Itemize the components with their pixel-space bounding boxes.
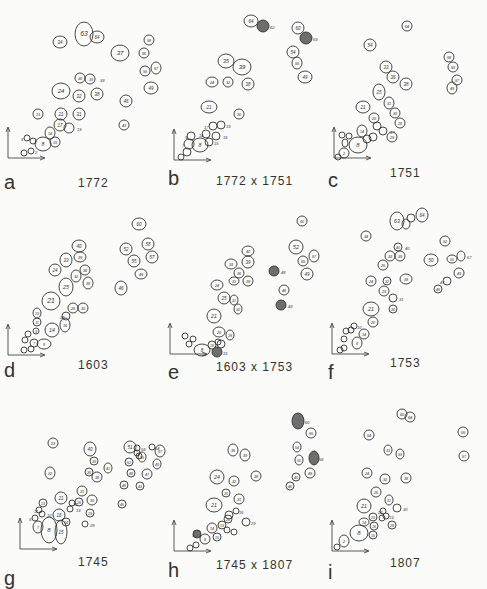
spot-label: 32: [383, 478, 388, 482]
protein-spot: 39: [396, 449, 404, 459]
protein-spot: 32: [380, 474, 390, 484]
axis-arrows-icon: [330, 520, 369, 553]
protein-spot: 8: [350, 525, 368, 541]
protein-spot: 28: [388, 521, 396, 529]
spot-side-label: 26: [377, 510, 383, 515]
protein-spot: 30: [393, 504, 408, 512]
protein-spot: 21: [357, 499, 371, 513]
spot-label: 28: [389, 524, 394, 528]
spot-label: 24: [364, 472, 369, 476]
protein-spot: [334, 544, 340, 550]
panel-caption: 1807: [390, 556, 421, 570]
protein-spot: 20: [369, 513, 377, 521]
spot-label: 64: [408, 416, 412, 420]
protein-spot: 24: [362, 468, 372, 478]
spot-label: 55: [461, 431, 466, 435]
spot-label: 2: [342, 540, 346, 544]
protein-spot: 26: [377, 508, 386, 515]
spot-side-label: 30: [403, 507, 408, 512]
spot-label: 25: [373, 491, 379, 495]
spot-label: 21: [360, 503, 367, 509]
spot-label: 20: [370, 516, 375, 520]
protein-spot: 38: [401, 473, 411, 483]
protein-spot: 15: [369, 531, 377, 539]
spot-label: 38: [404, 477, 409, 481]
protein-spot: 33: [384, 445, 392, 455]
spot-label: 15: [371, 534, 375, 538]
protein-spot: 16: [370, 522, 378, 530]
protein-spot: 54: [364, 430, 374, 440]
spot-label: 54: [367, 434, 371, 438]
spot-side-label: 19: [389, 515, 394, 520]
spot-label: 39: [398, 453, 402, 457]
spot-label: 31: [387, 499, 391, 503]
protein-spot: 55: [458, 427, 468, 437]
spot-label: 8: [357, 530, 361, 536]
protein-spot: 31: [385, 495, 393, 505]
protein-spot: 2: [339, 535, 349, 547]
spot-label: 14: [362, 521, 366, 525]
protein-spot: 25: [371, 487, 381, 497]
spot-label: 60: [400, 413, 405, 417]
panel-letter: i: [328, 562, 332, 582]
protein-spot: 57: [459, 451, 469, 461]
spot-label: 33: [386, 449, 390, 453]
spot-label: 57: [462, 455, 467, 459]
spot-label: 16: [372, 525, 376, 529]
